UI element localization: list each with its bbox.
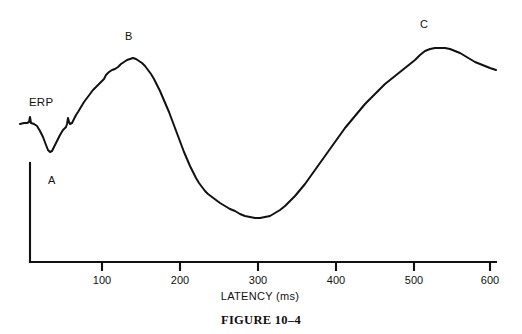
erp-trace-label: ERP: [29, 96, 53, 108]
component-label-a: A: [48, 174, 56, 186]
x-axis-tick-label: 200: [171, 274, 189, 286]
x-axis-tick-label: 600: [481, 274, 499, 286]
component-label-b: B: [125, 30, 133, 42]
series-group: [20, 48, 496, 218]
x-axis-tick-label: 100: [93, 274, 111, 286]
x-axis-tick-label: 400: [327, 274, 345, 286]
x-axis-tick-label: 500: [405, 274, 423, 286]
x-axis-tick-label: 300: [249, 274, 267, 286]
x-axis-ticks: [102, 262, 490, 271]
erp-waveform-trace: [20, 48, 496, 218]
erp-figure: ERP A B C 100200300400500600 LATENCY (ms…: [0, 0, 522, 334]
figure-caption: FIGURE 10–4: [221, 313, 301, 328]
x-axis-title: LATENCY (ms): [221, 290, 299, 302]
component-label-c: C: [420, 18, 428, 30]
